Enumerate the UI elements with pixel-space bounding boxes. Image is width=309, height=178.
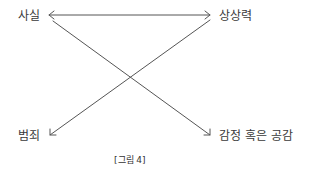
edge-fact-emotion: [53, 21, 210, 135]
arrow-lines: [0, 0, 309, 178]
node-fact: 사실: [18, 9, 40, 23]
node-imagination: 상상력: [219, 9, 252, 23]
node-crime: 범죄: [18, 129, 40, 143]
diagram: 사실 상상력 범죄 감정 혹은 공감 [그림 4]: [0, 0, 309, 178]
node-emotion-empathy: 감정 혹은 공감: [219, 129, 293, 143]
figure-caption: [그림 4]: [114, 154, 146, 166]
